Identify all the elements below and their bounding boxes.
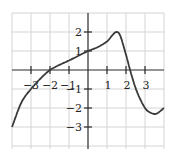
y-label-2: 2 xyxy=(75,26,82,39)
x-tick-labels: −3 −2 −1 1 2 3 xyxy=(23,79,150,92)
function-graph: −3 −2 −1 1 2 3 2 1 −1 −2 −3 xyxy=(0,0,176,159)
y-label-neg3: −3 xyxy=(66,121,82,134)
x-label-1: 1 xyxy=(105,79,112,92)
y-label-neg2: −2 xyxy=(66,102,82,115)
y-label-neg1: −1 xyxy=(66,83,82,96)
x-label-neg2: −2 xyxy=(42,79,58,92)
x-label-3: 3 xyxy=(143,79,150,92)
x-label-2: 2 xyxy=(124,79,131,92)
